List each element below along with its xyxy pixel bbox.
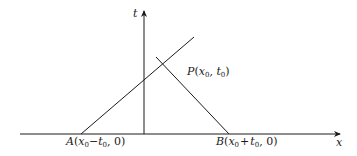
point-a-label: A(x0−t0, 0): [65, 135, 125, 149]
characteristics-diagram: t x A(x0−t0, 0) B(x0+t0, 0) P(x0, t0): [0, 0, 357, 156]
point-p-label: P(x0, t0): [186, 65, 230, 79]
characteristic-line-from-a: [81, 37, 194, 134]
point-b-label: B(x0+t0, 0): [215, 135, 277, 149]
x-axis-label: x: [336, 136, 343, 149]
t-axis-label: t: [133, 7, 138, 20]
